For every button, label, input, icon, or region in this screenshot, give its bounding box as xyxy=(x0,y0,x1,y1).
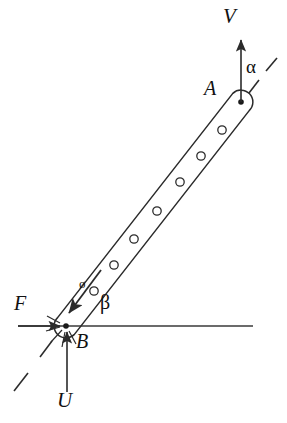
label-force-F: F xyxy=(14,293,26,313)
rod-hole xyxy=(176,178,184,186)
rod-axis-extension-lower xyxy=(14,341,52,391)
label-point-B: B xyxy=(76,331,88,351)
rod-hole xyxy=(153,207,161,215)
label-velocity-U: U xyxy=(57,390,72,411)
label-angle-phi: ø xyxy=(79,277,86,290)
rod-holes xyxy=(90,126,226,295)
mechanics-diagram xyxy=(0,0,287,423)
label-angle-beta: β xyxy=(100,292,110,312)
rod-hole xyxy=(110,261,118,269)
label-point-A: A xyxy=(204,78,216,98)
label-velocity-V: V xyxy=(223,6,236,27)
label-angle-alpha: α xyxy=(246,57,256,76)
figure-container: V A α F β ø B U xyxy=(0,0,287,423)
point-B-marker xyxy=(63,323,69,329)
rod-hole xyxy=(197,152,205,160)
rod-hole xyxy=(130,235,138,243)
rod-hole xyxy=(90,287,98,295)
rod-hole xyxy=(218,126,226,134)
